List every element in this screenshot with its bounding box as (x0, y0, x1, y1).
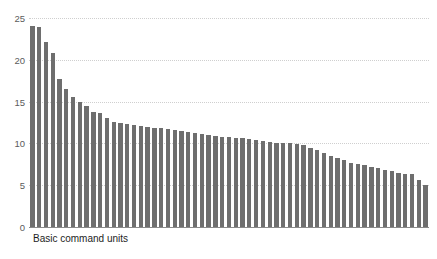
bar (301, 145, 305, 227)
bar (403, 174, 407, 228)
bar (247, 139, 251, 227)
bar (335, 158, 339, 227)
bar (91, 112, 95, 227)
bar (383, 170, 387, 227)
bar (132, 125, 136, 227)
bar (37, 27, 41, 227)
bar (329, 156, 333, 227)
bar (125, 124, 129, 227)
bar (423, 185, 427, 227)
bar (179, 131, 183, 227)
bar (274, 143, 278, 227)
bar (118, 123, 122, 228)
bar (268, 142, 272, 227)
bar (254, 140, 258, 227)
bar (152, 128, 156, 227)
bar (308, 148, 312, 227)
bar (213, 136, 217, 227)
bar (240, 138, 244, 227)
bar (78, 102, 82, 227)
bar (322, 153, 326, 227)
bar (71, 97, 75, 227)
bar (57, 79, 61, 227)
bar (362, 165, 366, 227)
bar (390, 171, 394, 227)
bar (234, 138, 238, 227)
bar (51, 53, 55, 227)
bar (159, 128, 163, 227)
bar (166, 129, 170, 227)
bar (417, 180, 421, 227)
bar (105, 118, 109, 227)
bar (200, 134, 204, 227)
bar (261, 141, 265, 227)
bar (315, 150, 319, 227)
plot-area (29, 18, 429, 227)
bar (98, 113, 102, 227)
bar (295, 144, 299, 227)
bar (64, 89, 68, 227)
bar (220, 137, 224, 227)
y-tick-label-25: 25 (1, 14, 25, 24)
bar (342, 160, 346, 227)
bar-chart-figure: 0510152025 Basic command units (0, 0, 437, 259)
bar (376, 168, 380, 227)
bar (30, 26, 34, 227)
y-axis-tick-labels: 0510152025 (0, 18, 25, 227)
bar (84, 106, 88, 227)
y-tick-label-5: 5 (1, 181, 25, 191)
bar (44, 42, 48, 227)
bar (356, 164, 360, 227)
y-tick-label-15: 15 (1, 98, 25, 108)
bar (349, 163, 353, 227)
y-tick-label-20: 20 (1, 56, 25, 66)
bar (281, 143, 285, 227)
bar (206, 135, 210, 227)
bar (396, 173, 400, 227)
bar (227, 137, 231, 227)
y-tick-label-10: 10 (1, 139, 25, 149)
y-tick-label-0: 0 (1, 223, 25, 233)
bar (410, 174, 414, 227)
bar (145, 127, 149, 227)
gridline-0 (29, 227, 429, 228)
bar-series (29, 18, 429, 227)
bar (288, 143, 292, 227)
x-axis-label: Basic command units (33, 233, 128, 244)
bar (139, 126, 143, 227)
bar (173, 130, 177, 227)
bar (193, 133, 197, 227)
chart-title (30, 0, 430, 3)
bar (186, 132, 190, 227)
bar (369, 167, 373, 227)
bar (112, 122, 116, 227)
